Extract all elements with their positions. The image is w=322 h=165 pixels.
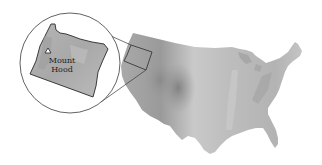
mount-hood-label-line1: Mount — [47, 57, 77, 65]
relief-map — [0, 0, 322, 165]
mount-hood-label-line2: Hood — [47, 66, 77, 74]
